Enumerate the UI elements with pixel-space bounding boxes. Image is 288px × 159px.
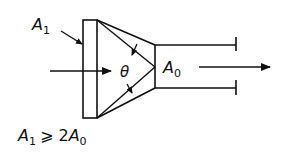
jet-line-top bbox=[97, 20, 155, 67]
nozzle-diagram: A1 θ A0 A1⩾ 2A0 bbox=[0, 0, 288, 159]
area-condition: A1⩾ 2A0 bbox=[17, 126, 87, 148]
inlet-plate bbox=[83, 20, 97, 118]
angle-label: θ bbox=[120, 63, 129, 81]
inlet-area-pointer bbox=[61, 31, 82, 44]
inlet-area-label: A1 bbox=[31, 15, 50, 37]
outlet-area-label: A0 bbox=[162, 58, 181, 80]
cone-wall-top bbox=[97, 20, 155, 45]
